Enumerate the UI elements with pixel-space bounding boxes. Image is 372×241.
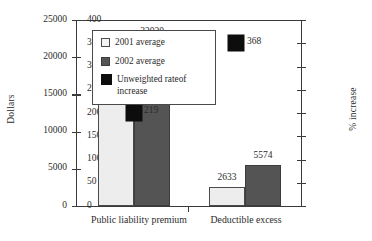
- legend-swatch-2001-icon: [101, 38, 110, 47]
- y-tick-label-left-15000: 15000: [43, 88, 67, 98]
- y-tick-right-0: [297, 206, 306, 207]
- x-category-label-public-liability-premium: Public liability premium: [91, 214, 187, 225]
- y-tick-left-0: [72, 206, 81, 207]
- y-tick-right-50: [297, 183, 306, 184]
- y-axis-left-line: [76, 20, 77, 207]
- x-tick-category-separator: [188, 206, 189, 212]
- y-tick-right-100: [297, 160, 306, 161]
- bar-deductible-excess-2002[interactable]: [245, 165, 281, 207]
- legend-label-2001-average: 2001 average: [115, 37, 165, 49]
- y-tick-left-20000: [72, 57, 81, 58]
- y-tick-left-25000: [72, 20, 81, 21]
- y-tick-label-right-0: 0: [87, 200, 92, 210]
- y-tick-right-150: [297, 136, 306, 137]
- legend-label-2002-average: 2002 average: [115, 56, 165, 68]
- y-tick-right-400: [297, 20, 306, 21]
- legend-swatch-2002-icon: [101, 57, 110, 66]
- bar-deductible-excess-2001[interactable]: [209, 187, 245, 207]
- y-tick-right-300: [297, 67, 306, 68]
- legend-swatch-unweighted-rate-icon: [101, 74, 112, 85]
- legend-item-2002-average[interactable]: 2002 average: [101, 56, 208, 68]
- bar-value-deductible-excess-2001: 2633: [218, 172, 237, 182]
- rate-value-public-liability: 219: [144, 105, 158, 115]
- legend-label-unweighted-rate: Unweighted rateof increase: [117, 74, 208, 97]
- y-tick-right-250: [297, 90, 306, 91]
- y-tick-left-5000: [72, 169, 81, 170]
- y-axis-left-title: Dollars: [6, 74, 16, 144]
- bar-value-deductible-excess-2002: 5574: [254, 150, 273, 160]
- rate-value-deductible-excess: 368: [247, 36, 261, 46]
- y-tick-right-200: [297, 113, 306, 114]
- bar-chart: Dollars % increase 25000 20000 15000 100…: [0, 0, 372, 241]
- x-category-label-deductible-excess: Deductible excess: [211, 214, 282, 225]
- y-axis-right-title: % increase: [348, 74, 358, 144]
- y-tick-label-left-0: 0: [62, 200, 67, 210]
- rate-marker-public-liability[interactable]: [126, 104, 143, 121]
- y-tick-label-left-20000: 20000: [43, 51, 67, 61]
- y-tick-left-15000: [72, 94, 81, 95]
- rate-marker-deductible-excess[interactable]: [228, 35, 245, 52]
- legend-item-2001-average[interactable]: 2001 average: [101, 37, 208, 49]
- legend: 2001 average 2002 average Unweighted rat…: [92, 30, 216, 105]
- y-tick-label-right-400: 400: [87, 14, 101, 24]
- y-tick-right-350: [297, 43, 306, 44]
- plot-top-border: [76, 20, 302, 21]
- y-tick-label-left-25000: 25000: [43, 14, 67, 24]
- y-tick-left-10000: [72, 132, 81, 133]
- y-tick-label-left-5000: 5000: [48, 162, 67, 172]
- y-tick-label-right-50: 50: [87, 176, 97, 186]
- y-tick-label-left-10000: 10000: [43, 125, 67, 135]
- legend-item-unweighted-rate[interactable]: Unweighted rateof increase: [101, 74, 208, 97]
